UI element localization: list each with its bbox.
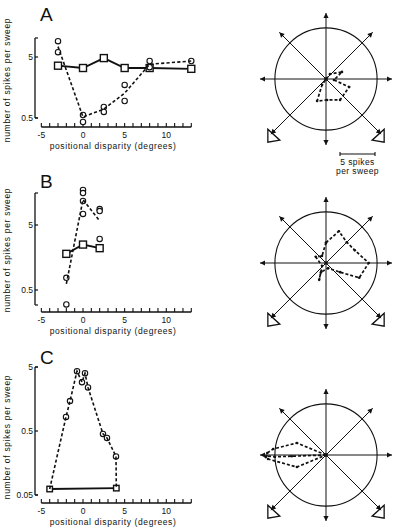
response-point <box>329 73 332 76</box>
square-marker <box>96 245 103 252</box>
y-tick-label: 0.05 <box>16 490 33 500</box>
response-point <box>318 279 321 282</box>
direction-axis <box>271 455 326 510</box>
x-tick-label: 5 <box>122 130 127 140</box>
y-axis-label: number of spikes per sweep <box>2 18 12 143</box>
x-tick-label: 10 <box>162 130 172 140</box>
y-tick-label: 0.5 <box>21 285 33 295</box>
y-tick-label: 0.5 <box>21 426 33 436</box>
x-tick-label: -5 <box>38 315 46 325</box>
response-point <box>296 466 299 469</box>
response-point <box>320 271 323 274</box>
response-point <box>353 249 356 252</box>
y-tick-label: 5 <box>28 362 33 372</box>
response-point <box>333 79 336 82</box>
response-point <box>321 265 324 268</box>
arrowhead-icon <box>387 76 392 81</box>
response-point <box>272 448 275 451</box>
circle-marker <box>122 98 127 103</box>
arrowhead-icon <box>323 389 328 394</box>
y-tick-label: 0.5 <box>21 113 33 123</box>
response-point <box>339 271 342 274</box>
panel-a-tuning-plot: Anumber of spikes per sweep50.5-50510pos… <box>2 4 195 151</box>
square-marker <box>100 55 107 62</box>
x-tick-label: 5 <box>122 315 127 325</box>
circle-marker <box>122 82 127 87</box>
panel-a-polar-plot <box>260 13 392 145</box>
circle-marker <box>55 38 60 43</box>
direction-axis <box>279 408 326 455</box>
square-marker <box>80 241 87 248</box>
response-point <box>327 267 330 270</box>
square-marker <box>188 65 195 72</box>
scale-bar-unit: per sweep <box>336 166 379 176</box>
response-point <box>358 277 361 280</box>
response-point <box>326 99 329 102</box>
square-marker <box>63 250 70 257</box>
circle-marker <box>97 208 102 213</box>
circle-marker <box>147 58 152 63</box>
scale-bar: 5 spikesper sweep <box>336 152 379 176</box>
response-point <box>274 455 277 458</box>
arrowhead-icon <box>323 516 328 521</box>
circle-marker <box>97 236 102 241</box>
square-marker <box>55 62 62 69</box>
direction-axis <box>326 79 381 134</box>
response-point <box>325 241 328 244</box>
arrowhead-icon <box>323 13 328 18</box>
polar-center <box>324 261 328 265</box>
direction-axis <box>326 455 381 510</box>
square-marker <box>121 65 128 72</box>
solid-series-line <box>50 488 117 489</box>
response-point <box>348 86 351 89</box>
circle-marker <box>80 190 85 195</box>
arrowhead-icon <box>260 76 265 81</box>
panel-b-tuning-plot: Bnumber of spikes per sweep50.5-50510pos… <box>2 171 191 336</box>
y-axis-label: number of spikes per sweep <box>2 188 12 313</box>
panel-letter: B <box>40 171 53 192</box>
response-polygon <box>316 231 369 280</box>
x-tick-label: -5 <box>38 130 46 140</box>
response-point <box>265 455 268 458</box>
circle-marker <box>64 302 69 307</box>
x-tick-label: -5 <box>38 506 46 516</box>
panel-c-polar-plot <box>260 389 392 521</box>
response-point <box>314 256 317 259</box>
x-tick-label: 0 <box>81 506 86 516</box>
panel-b-polar-plot <box>260 197 392 329</box>
panel-letter: A <box>40 4 53 25</box>
x-tick-label: 0 <box>81 315 86 325</box>
response-point <box>290 455 293 458</box>
direction-axis <box>326 408 373 455</box>
figure-canvas: Anumber of spikes per sweep50.5-50510pos… <box>0 0 397 529</box>
response-point <box>316 100 319 103</box>
response-point <box>325 454 328 457</box>
direction-axis <box>326 216 373 263</box>
panel-letter: C <box>40 347 54 368</box>
response-point <box>338 230 341 233</box>
response-point <box>367 262 370 265</box>
response-point <box>321 84 324 87</box>
dashed-series-line <box>50 371 117 489</box>
arrowhead-icon <box>260 452 265 457</box>
direction-axis <box>271 79 326 134</box>
x-tick-label: 5 <box>122 506 127 516</box>
circle-marker <box>80 119 85 124</box>
response-point <box>339 99 342 102</box>
direction-axis <box>326 263 381 318</box>
square-marker <box>80 65 87 72</box>
x-tick-label: 10 <box>162 506 172 516</box>
response-point <box>321 255 324 258</box>
arrowhead-icon <box>387 260 392 265</box>
panel-c-tuning-plot: Cnumber of spikes per sweep50.50.05-5051… <box>2 347 191 527</box>
arrowhead-icon <box>387 452 392 457</box>
response-point <box>267 458 270 461</box>
figure: Anumber of spikes per sweep50.5-50510pos… <box>0 0 397 529</box>
arrowhead-icon <box>323 197 328 202</box>
response-point <box>341 71 344 74</box>
arrowhead-icon <box>323 324 328 329</box>
y-tick-label: 5 <box>28 52 33 62</box>
x-axis-label: positional disparity (degrees) <box>50 141 177 151</box>
x-axis-label: positional disparity (degrees) <box>50 326 177 336</box>
response-point <box>345 241 348 244</box>
